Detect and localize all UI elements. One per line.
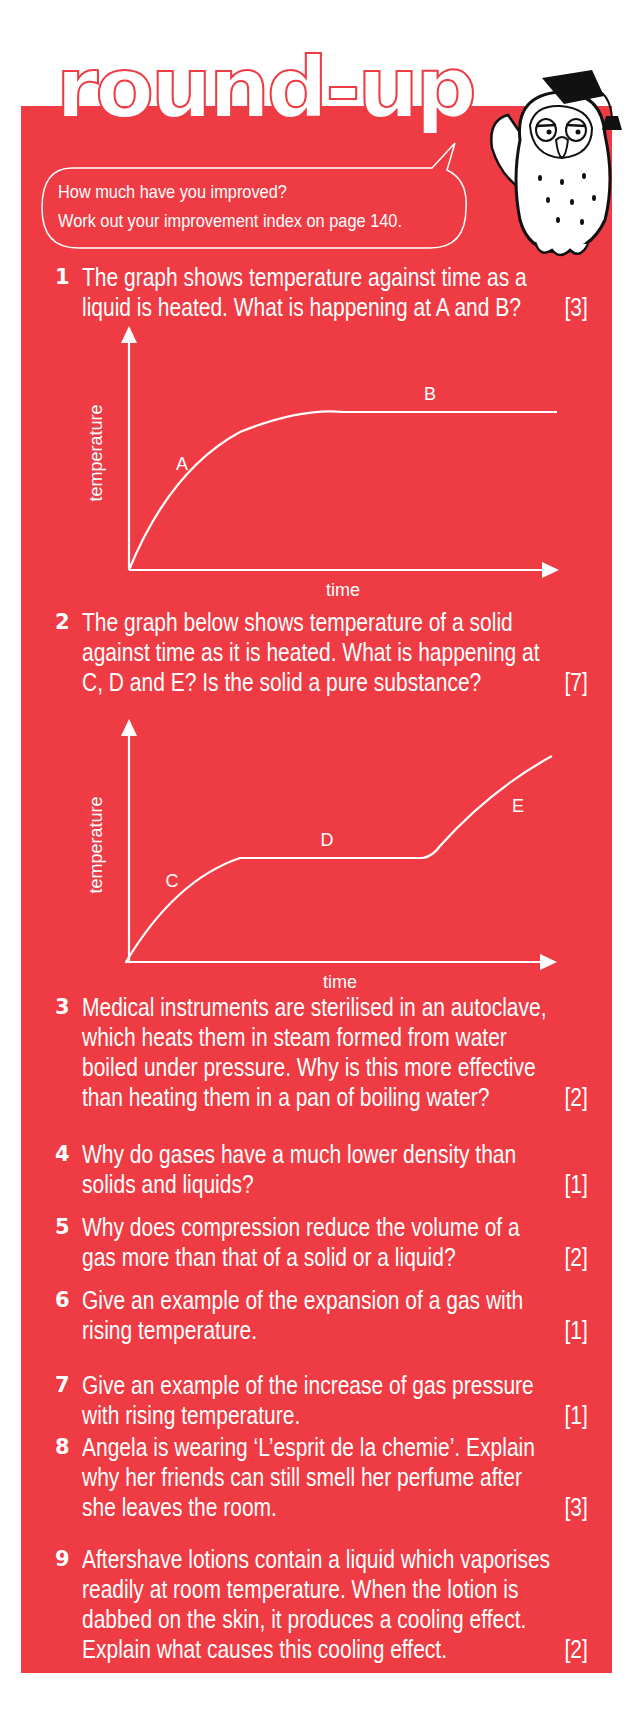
marks-badge: [7] [565, 667, 588, 697]
question-text-line: against time as it is heated. What is ha… [82, 637, 540, 667]
point-label-d: D [321, 830, 334, 850]
question-text-line: Angela is wearing ‘L’esprit de la chemie… [82, 1432, 535, 1462]
marks-badge: [2] [565, 1082, 588, 1112]
marks-badge: [1] [565, 1400, 588, 1430]
marks-badge: [2] [565, 1242, 588, 1272]
question-number: 2 [55, 607, 70, 637]
question-text-line: with rising temperature. [82, 1400, 300, 1430]
marks-badge: [3] [565, 1492, 588, 1522]
question-number: 6 [55, 1285, 70, 1315]
point-label-a: A [176, 454, 188, 474]
question-text-line: boiled under pressure. Why is this more … [82, 1052, 536, 1082]
y-axis-label: temperature [86, 404, 106, 501]
marks-badge: [1] [565, 1169, 588, 1199]
question-text-line: readily at room temperature. When the lo… [82, 1574, 519, 1604]
question-text-line: than heating them in a pan of boiling wa… [82, 1082, 489, 1112]
point-label-e: E [512, 796, 524, 816]
x-axis-label: time [326, 580, 360, 600]
question-number: 3 [55, 992, 70, 1022]
question-text-line: Why do gases have a much lower density t… [82, 1139, 516, 1169]
question-number: 5 [55, 1212, 70, 1242]
question-number: 4 [55, 1139, 70, 1169]
question-text-line: Medical instruments are sterilised in an… [82, 992, 547, 1022]
question-text-line: solids and liquids? [82, 1169, 254, 1199]
question-text-line: C, D and E? Is the solid a pure substanc… [82, 667, 481, 697]
question-text-line: Aftershave lotions contain a liquid whic… [82, 1544, 550, 1574]
question-number: 8 [55, 1432, 70, 1462]
question-number: 9 [55, 1544, 70, 1574]
point-label-c: C [166, 871, 179, 891]
question-text-line: Explain what causes this cooling effect. [82, 1634, 447, 1664]
point-label-b: B [424, 384, 436, 404]
question-number: 7 [55, 1370, 70, 1400]
question-text-line: she leaves the room. [82, 1492, 277, 1522]
question-text-line: Give an example of the increase of gas p… [82, 1370, 534, 1400]
question-text-line: why her friends can still smell her perf… [82, 1462, 522, 1492]
y-axis-label: temperature [86, 796, 106, 893]
question-text-line: gas more than that of a solid or a liqui… [82, 1242, 456, 1272]
question-text-line: rising temperature. [82, 1315, 257, 1345]
marks-badge: [2] [565, 1634, 588, 1664]
question-text-line: Give an example of the expansion of a ga… [82, 1285, 523, 1315]
question-text-line: dabbed on the skin, it produces a coolin… [82, 1604, 526, 1634]
x-axis-label: time [323, 972, 357, 992]
marks-badge: [1] [565, 1315, 588, 1345]
question-text-line: The graph below shows temperature of a s… [82, 607, 513, 637]
question-text-line: which heats them in steam formed from wa… [82, 1022, 507, 1052]
question-text-line: Why does compression reduce the volume o… [82, 1212, 520, 1242]
